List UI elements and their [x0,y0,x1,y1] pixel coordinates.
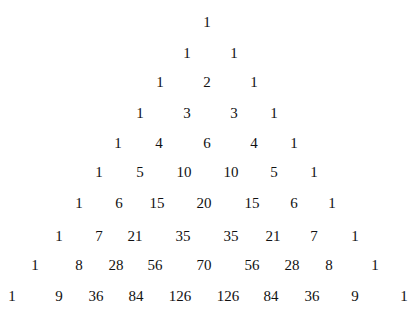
triangle-cell: 1 [8,289,16,304]
triangle-cell: 4 [155,136,163,151]
triangle-cell: 4 [250,136,258,151]
triangle-cell: 1 [400,289,408,304]
triangle-cell: 36 [89,289,104,304]
triangle-cell: 20 [197,196,212,211]
triangle-cell: 84 [264,289,279,304]
triangle-cell: 126 [217,289,240,304]
triangle-cell: 1 [75,196,83,211]
triangle-cell: 8 [325,258,333,273]
triangle-cell: 56 [245,258,260,273]
triangle-cell: 9 [351,289,359,304]
triangle-cell: 10 [224,165,239,180]
triangle-cell: 7 [95,229,103,244]
triangle-cell: 6 [290,196,298,211]
triangle-cell: 3 [183,106,191,121]
triangle-cell: 21 [128,229,143,244]
triangle-cell: 1 [114,136,122,151]
triangle-cell: 1 [156,75,164,90]
triangle-cell: 28 [109,258,124,273]
triangle-cell: 6 [203,136,211,151]
triangle-cell: 1 [290,136,298,151]
triangle-cell: 1 [310,165,318,180]
triangle-cell: 1 [203,15,211,30]
triangle-cell: 15 [150,196,165,211]
triangle-cell: 5 [270,165,278,180]
triangle-cell: 8 [75,258,83,273]
triangle-cell: 1 [95,165,103,180]
triangle-cell: 1 [250,75,258,90]
triangle-cell: 5 [136,165,144,180]
triangle-cell: 1 [183,46,191,61]
triangle-cell: 1 [230,46,238,61]
triangle-cell: 1 [328,196,336,211]
triangle-cell: 2 [203,75,211,90]
triangle-cell: 6 [115,196,123,211]
triangle-cell: 28 [285,258,300,273]
triangle-cell: 1 [55,229,63,244]
triangle-cell: 7 [310,229,318,244]
triangle-cell: 126 [169,289,192,304]
triangle-cell: 84 [129,289,144,304]
triangle-cell: 1 [371,258,379,273]
triangle-cell: 56 [148,258,163,273]
pascal-triangle: 1111211331146411510105116152015611721353… [0,0,414,310]
triangle-cell: 9 [55,289,63,304]
triangle-cell: 21 [266,229,281,244]
triangle-cell: 35 [224,229,239,244]
triangle-cell: 3 [230,106,238,121]
triangle-cell: 1 [31,258,39,273]
triangle-cell: 36 [305,289,320,304]
triangle-cell: 1 [136,106,144,121]
triangle-cell: 15 [245,196,260,211]
triangle-cell: 1 [351,229,359,244]
triangle-cell: 70 [197,258,212,273]
triangle-cell: 1 [270,106,278,121]
triangle-cell: 35 [176,229,191,244]
triangle-cell: 10 [177,165,192,180]
